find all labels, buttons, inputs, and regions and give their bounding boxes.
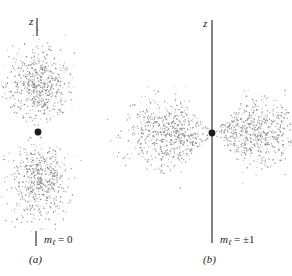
panel-a-electron-cloud <box>1 29 81 232</box>
panel-b-caption: (b) <box>203 254 216 265</box>
panel-b-electron-cloud <box>107 85 292 188</box>
panel-a-z-label: z <box>29 16 33 27</box>
panel-b-nucleus <box>209 130 216 137</box>
panel-a-nucleus <box>35 129 42 136</box>
m-subscript: ℓ <box>228 238 231 247</box>
m-value: = ±1 <box>234 233 255 245</box>
m-symbol: m <box>44 233 52 245</box>
m-value: = 0 <box>58 233 72 245</box>
panel-a-m-label: mℓ = 0 <box>44 234 73 247</box>
panel-a-caption: (a) <box>29 254 42 265</box>
panel-b-m-label: mℓ = ±1 <box>220 234 255 247</box>
orbital-probability-figure: z z mℓ = 0 mℓ = ±1 (a) (b) <box>0 0 292 276</box>
panel-b-z-label: z <box>203 18 207 29</box>
m-subscript: ℓ <box>52 238 55 247</box>
m-symbol: m <box>220 233 228 245</box>
